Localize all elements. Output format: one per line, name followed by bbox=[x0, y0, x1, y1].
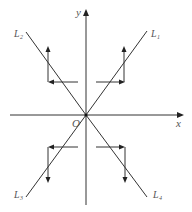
label-l2: L 2 bbox=[13, 28, 23, 40]
svg-text:L: L bbox=[150, 28, 157, 39]
line-l1 bbox=[86, 31, 147, 115]
arrow-down-icon bbox=[123, 177, 128, 183]
arrow-up-icon bbox=[122, 46, 127, 52]
arrow-right-icon bbox=[119, 145, 125, 150]
svg-text:1: 1 bbox=[157, 34, 160, 40]
arrow-up-icon bbox=[46, 46, 51, 52]
y-axis-label: y bbox=[75, 6, 81, 18]
label-l1: L 1 bbox=[150, 28, 160, 40]
x-axis bbox=[10, 112, 184, 118]
svg-text:L: L bbox=[152, 189, 159, 200]
coordinate-diagram: y x O L 1 L 2 L 3 L 4 bbox=[0, 0, 192, 212]
svg-text:L: L bbox=[13, 189, 20, 200]
line-l2 bbox=[26, 32, 86, 115]
y-axis bbox=[83, 9, 89, 205]
label-l4: L 4 bbox=[152, 189, 162, 201]
origin-point bbox=[84, 113, 87, 116]
arrow-left-icon bbox=[48, 145, 54, 150]
origin-label: O bbox=[72, 117, 80, 129]
y-axis-arrow-icon bbox=[83, 9, 89, 16]
line-l4 bbox=[86, 115, 147, 197]
label-l3: L 3 bbox=[13, 189, 23, 201]
arrow-down-icon bbox=[46, 177, 51, 183]
svg-text:4: 4 bbox=[159, 195, 162, 201]
x-axis-label: x bbox=[175, 117, 181, 129]
svg-text:L: L bbox=[13, 28, 20, 39]
arrow-left-icon bbox=[48, 80, 54, 85]
svg-text:3: 3 bbox=[19, 195, 23, 201]
svg-text:2: 2 bbox=[20, 34, 23, 40]
